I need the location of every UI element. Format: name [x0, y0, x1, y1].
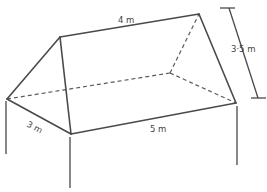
edge-front-left-slope	[7, 37, 60, 99]
prism-diagram: 4 m 5 m 3 m 3·5 m	[0, 0, 267, 192]
edge-back-right-slope	[199, 14, 236, 103]
edge-front-right-slope	[60, 37, 71, 134]
label-base-width: 3 m	[25, 119, 44, 136]
label-ridge-length: 4 m	[118, 15, 134, 25]
hidden-edge-back-rise	[170, 14, 199, 73]
label-base-length: 5 m	[150, 124, 166, 134]
label-height: 3·5 m	[231, 44, 256, 54]
hidden-edge-back-base	[7, 73, 170, 99]
